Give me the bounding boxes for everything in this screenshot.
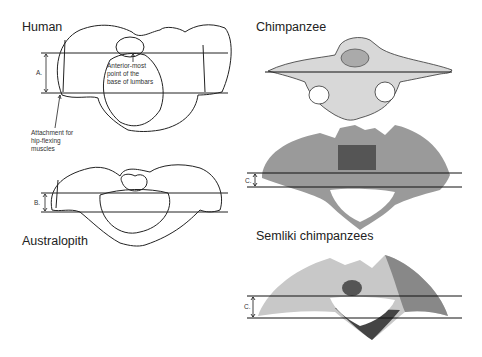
measure-label-c-lower: C. xyxy=(244,303,251,311)
hip-flexing-annotation: Attachment for hip-flexing muscles xyxy=(31,129,73,153)
chimpanzee-pelvis-drawing xyxy=(268,38,452,121)
semliki-title: Semliki chimpanzees xyxy=(256,229,373,243)
semliki-pelvis-photo-upper xyxy=(262,125,450,230)
australopith-title: Australopith xyxy=(22,234,88,248)
human-title: Human xyxy=(22,20,62,34)
semliki-pelvis-photo-lower xyxy=(258,255,448,340)
measure-label-a: A. xyxy=(36,69,42,77)
pelvis-diagram xyxy=(0,0,482,357)
measure-label-c-upper: C. xyxy=(245,177,252,185)
measure-label-b: B. xyxy=(34,199,40,207)
lumbar-annotation: Anterior-most point of the base of lumba… xyxy=(107,62,153,86)
chimpanzee-title: Chimpanzee xyxy=(256,20,326,34)
